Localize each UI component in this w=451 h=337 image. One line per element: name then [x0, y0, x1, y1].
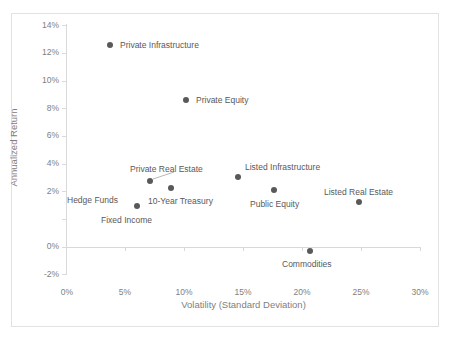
- x-tick-mark: [243, 247, 244, 251]
- point-label-fixed-income: Fixed Income: [101, 216, 152, 225]
- x-tick-label: 10%: [175, 287, 192, 297]
- point-label-private-infrastructure: Private Infrastructure: [120, 41, 199, 50]
- y-tick-label: 0%: [28, 242, 59, 251]
- point-label-listed-infrastructure: Listed Infrastructure: [245, 163, 320, 172]
- data-point-commodities[interactable]: [307, 248, 313, 254]
- y-tick-mark: [62, 53, 66, 54]
- point-label-private-equity: Private Equity: [196, 96, 248, 105]
- point-label-commodities: Commodities: [282, 260, 332, 269]
- y-tick-mark: [62, 81, 66, 82]
- y-tick-label: 10%: [28, 76, 59, 85]
- x-tick-mark: [184, 247, 185, 251]
- x-tick-mark: [361, 247, 362, 251]
- y-tick-label: 14%: [28, 21, 59, 30]
- data-point-listed-infrastructure[interactable]: [235, 174, 241, 180]
- point-label-hedge-funds: Hedge Funds: [67, 196, 118, 205]
- y-tick-label: 2%: [28, 187, 59, 196]
- data-point-public-equity[interactable]: [271, 187, 277, 193]
- x-axis-title: Volatility (Standard Deviation): [66, 299, 421, 310]
- x-tick-mark: [125, 247, 126, 251]
- data-point-private-infrastructure[interactable]: [107, 42, 113, 48]
- x-tick-mark: [420, 247, 421, 251]
- y-tick-mark: [62, 108, 66, 109]
- data-point-hedge-funds-fixed-income[interactable]: [134, 203, 140, 209]
- point-label-listed-real-estate: Listed Real Estate: [324, 188, 393, 197]
- y-tick-mark: [62, 274, 66, 275]
- y-tick-label: 8%: [28, 104, 59, 113]
- point-label-10-year-treasury: 10-Year Treasury: [148, 197, 213, 206]
- y-axis-title: Annualized Return: [8, 78, 19, 218]
- x-tick-mark: [66, 247, 67, 251]
- data-point-listed-real-estate[interactable]: [356, 199, 362, 205]
- x-tick-label: 0%: [61, 287, 73, 297]
- x-tick-mark: [302, 247, 303, 251]
- point-label-private-real-estate: Private Real Estate: [130, 165, 203, 174]
- y-tick-mark: [62, 191, 66, 192]
- y-tick-label: 6%: [28, 131, 59, 140]
- x-tick-label: 20%: [293, 287, 310, 297]
- data-point-private-equity[interactable]: [183, 97, 189, 103]
- y-axis-line: [66, 24, 67, 275]
- x-tick-label: 15%: [234, 287, 251, 297]
- data-point-private-real-estate[interactable]: [147, 178, 153, 184]
- y-tick-mark: [62, 136, 66, 137]
- y-tick-label: -2%: [28, 270, 59, 279]
- y-tick-label: 4%: [28, 159, 59, 168]
- y-tick-mark: [62, 25, 66, 26]
- x-tick-label: 5%: [119, 287, 131, 297]
- y-tick-mark: [62, 219, 66, 220]
- data-point-10-year-treasury[interactable]: [168, 185, 174, 191]
- point-label-public-equity: Public Equity: [250, 200, 299, 209]
- x-tick-label: 30%: [411, 287, 428, 297]
- y-tick-label: 12%: [28, 48, 59, 57]
- scatter-plot: 14% 12% 10% 8% 6% 4% 2% 0% -2% 0% 5% 10%…: [0, 0, 451, 337]
- x-tick-label: 25%: [352, 287, 369, 297]
- y-tick-mark: [62, 164, 66, 165]
